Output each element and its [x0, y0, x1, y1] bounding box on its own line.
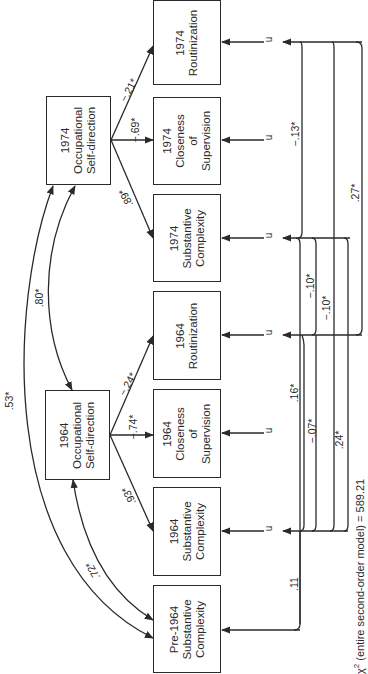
chi-superscript: 2 [352, 664, 361, 668]
residual-u-close1974: u [263, 135, 274, 141]
indicator-box-close1964: 1964 Closeness of Supervision [153, 389, 221, 478]
arrow-osd1964-pre1964 [73, 480, 153, 620]
latent-box-osd1964: 1964 Occupational Self-direction [45, 390, 110, 480]
loading-osd1964-close: −.74* [127, 415, 139, 440]
residual-u-rout1964: u [263, 330, 274, 336]
corr-rout1974-pre [330, 42, 334, 531]
arrow-osd1974-osd1964 [48, 186, 75, 390]
indicator-label: 1974 Routinization [174, 9, 200, 75]
chi-symbol: χ [354, 668, 366, 674]
loading-osd1974-close: −.69* [129, 118, 141, 143]
residual-u-close1964: u [263, 428, 274, 434]
arrow-osd1964-subst1964 [110, 435, 153, 531]
residual-u-subst1964: u [263, 526, 274, 532]
indicator-label: 1964 Closeness of Supervision [161, 403, 213, 463]
latent-label: 1974 Occupational Self-direction [59, 107, 98, 174]
corr-label-subst1974-pre1964: .24* [333, 431, 345, 450]
indicator-box-pre1964: Pre-1964 Substantive Complexity [153, 585, 221, 673]
corr-label-rout1964-subst1964: .16* [288, 384, 300, 403]
indicator-label: 1974 Closeness of Supervision [161, 111, 213, 171]
indicator-label: 1964 Substantive Complexity [167, 501, 206, 561]
path-osd1974-pre1964: .53* [3, 392, 15, 411]
indicator-box-subst1964: 1964 Substantive Complexity [153, 487, 221, 576]
corr-label-rout1974-rout1964: .27* [349, 184, 361, 203]
corr-label-rout1964-pre1964: −.07* [306, 419, 318, 444]
chi-text: (entire second-order model) = 589.21 [354, 479, 366, 661]
corr-label-rout1974-subst1974: −.13* [289, 122, 301, 147]
indicator-label: Pre-1964 Substantive Complexity [167, 599, 206, 659]
indicator-box-rout1964: 1964 Routinization [153, 291, 221, 380]
corr-subst1974-pre1964 [294, 238, 300, 630]
indicator-box-close1974: 1974 Closeness of Supervision [153, 97, 221, 185]
corr-subst1974-subst1964 [344, 238, 348, 531]
corr-label-subst1974-subst1964: −.10* [320, 296, 332, 321]
arrow-osd1974-subst1974 [111, 140, 153, 238]
latent-box-osd1974: 1974 Occupational Self-direction [46, 96, 111, 185]
corr-label-subst1964-pre1964: .11 [288, 577, 300, 591]
corr-label-subst1974-rout1964: −.10* [304, 274, 316, 299]
chi-square-fit: χ2 (entire second-order model) = 589.21 [352, 480, 368, 674]
indicator-box-subst1974: 1974 Substantive Complexity [153, 194, 221, 282]
indicator-label: 1964 Routinization [174, 302, 200, 368]
path-osd1974-osd1964: .80* [33, 289, 45, 308]
residual-u-subst1974: u [263, 233, 274, 239]
indicator-label: 1974 Substantive Complexity [167, 208, 206, 268]
residual-u-rout1974: u [263, 37, 274, 43]
latent-label: 1964 Occupational Self-direction [58, 401, 97, 468]
indicator-box-rout1974: 1974 Routinization [153, 0, 221, 85]
